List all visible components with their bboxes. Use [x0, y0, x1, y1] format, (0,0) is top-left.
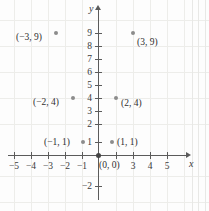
point-label-1-1: (1, 1)	[117, 138, 138, 148]
y-tick-label-8: 8	[74, 42, 92, 52]
y-tick-label-5: 5	[74, 81, 92, 91]
x-tick	[116, 152, 117, 159]
x-tick-label-3: 3	[126, 162, 140, 172]
y-tick	[95, 85, 102, 86]
data-point-3-9	[131, 31, 135, 35]
x-tick	[31, 152, 32, 159]
data-point-1-1	[110, 140, 114, 144]
gridline-horizontal	[0, 124, 209, 125]
point-label-0-0: (0, 0)	[99, 161, 120, 171]
gridline-vertical	[167, 0, 168, 211]
y-axis	[98, 10, 99, 200]
gridline-vertical	[184, 0, 185, 211]
data-point-0-0	[96, 153, 101, 158]
gridline-horizontal	[0, 202, 209, 203]
gridline-vertical	[65, 0, 66, 211]
data-point-neg2-4	[71, 96, 75, 100]
point-label-neg3-9: (−3, 9)	[16, 33, 42, 43]
gridline-horizontal	[0, 176, 209, 177]
gridline-horizontal	[0, 98, 209, 99]
gridline-horizontal	[0, 20, 209, 21]
y-axis-name: y	[89, 4, 93, 14]
y-tick	[95, 33, 102, 34]
y-tick	[95, 98, 102, 99]
gridline-vertical	[14, 0, 15, 211]
x-tick	[65, 152, 66, 159]
point-label-neg2-4: (−2, 4)	[33, 98, 59, 108]
gridline-vertical	[150, 0, 151, 211]
data-point-neg3-9	[54, 31, 58, 35]
y-tick-label-6: 6	[74, 68, 92, 78]
x-tick-label-5: 5	[160, 162, 174, 172]
y-tick	[95, 46, 102, 47]
x-axis-name: x	[189, 159, 193, 169]
x-tick-label-neg1: −1	[72, 162, 92, 172]
x-tick	[133, 152, 134, 159]
gridline-horizontal	[0, 46, 209, 47]
data-point-2-4	[114, 96, 118, 100]
y-tick	[95, 142, 102, 143]
y-tick-label-7: 7	[74, 55, 92, 65]
point-label-3-9: (3, 9)	[137, 38, 158, 48]
x-tick	[14, 152, 15, 159]
y-tick-label-9: 9	[74, 29, 92, 39]
y-axis-arrow-icon	[95, 5, 101, 10]
x-tick	[82, 152, 83, 159]
y-tick	[95, 124, 102, 125]
point-label-2-4: (2, 4)	[121, 99, 142, 109]
x-tick	[150, 152, 151, 159]
scan-artifact-stripe	[192, 0, 193, 211]
y-tick-label-2: 2	[74, 120, 92, 130]
x-tick	[48, 152, 49, 159]
y-tick	[95, 72, 102, 73]
point-label-neg1-1: (−1, 1)	[44, 138, 70, 148]
data-point-neg1-1	[81, 140, 85, 144]
y-tick-label-3: 3	[74, 107, 92, 117]
gridline-vertical	[116, 0, 117, 211]
y-tick	[95, 59, 102, 60]
y-tick-label-4: 4	[74, 94, 92, 104]
coordinate-plane-figure: 9 8 7 6 5 4 3 2 1 −2 −5 −4 −3 −2 −1 3 4 …	[0, 0, 209, 211]
scan-artifact-stripe	[198, 0, 199, 211]
x-tick	[167, 152, 168, 159]
y-tick-label-neg2: −2	[70, 182, 92, 192]
x-tick-label-4: 4	[143, 162, 157, 172]
y-tick	[95, 186, 102, 187]
y-tick	[95, 111, 102, 112]
gridline-horizontal	[0, 72, 209, 73]
scan-artifact-stripe	[205, 0, 206, 211]
